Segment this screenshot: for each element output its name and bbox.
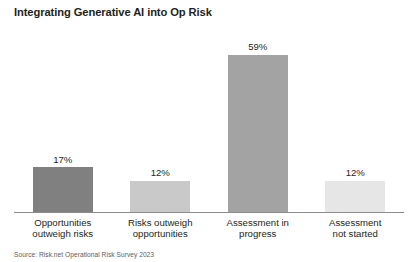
source-note: Source: Risk.net Operational Risk Survey… <box>14 251 154 258</box>
category-label-line: opportunities <box>112 228 210 239</box>
bar-group: 12% <box>307 28 405 213</box>
x-axis-category-label: Opportunities outweigh risks <box>14 217 112 240</box>
category-label-line: progress <box>209 228 307 239</box>
x-axis-category-label: Assessment in progress <box>209 217 307 240</box>
x-axis-category-label: Assessment not started <box>307 217 405 240</box>
category-label-line: Assessment <box>307 217 405 228</box>
bar-rect[interactable] <box>228 55 288 213</box>
bar-value-label: 59% <box>248 41 267 52</box>
x-axis-line <box>14 212 404 213</box>
x-axis-category-label: Risks outweigh opportunities <box>112 217 210 240</box>
category-label-line: not started <box>307 228 405 239</box>
chart-title: Integrating Generative AI into Op Risk <box>14 6 212 18</box>
bar-group: 17% <box>14 28 112 213</box>
bar-rect[interactable] <box>33 167 93 213</box>
bar-value-label: 17% <box>53 154 72 165</box>
category-label-line: Risks outweigh <box>112 217 210 228</box>
bar-rect[interactable] <box>130 181 190 213</box>
bar-value-label: 12% <box>151 167 170 178</box>
category-label-line: Opportunities <box>14 217 112 228</box>
bar-rect[interactable] <box>325 181 385 213</box>
bar-value-label: 12% <box>346 167 365 178</box>
category-label-line: Assessment in <box>209 217 307 228</box>
bar-chart-figure: Integrating Generative AI into Op Risk 1… <box>0 0 418 262</box>
category-label-line: outweigh risks <box>14 228 112 239</box>
bar-group: 59% <box>209 28 307 213</box>
bar-group: 12% <box>112 28 210 213</box>
plot-area: 17% 12% 59% 12% <box>14 28 404 213</box>
